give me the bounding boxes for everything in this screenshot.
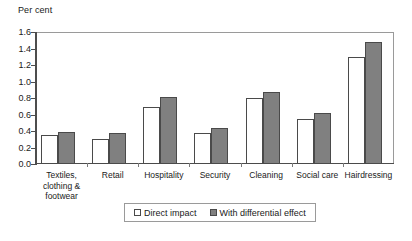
y-axis-labels: 1.61.41.21.00.80.60.40.20.0 <box>0 0 31 241</box>
bar <box>92 139 109 164</box>
bar <box>246 98 263 164</box>
y-axis-tick-label: 1.0 <box>1 77 31 87</box>
y-axis-tick-label: 0.8 <box>1 93 31 103</box>
x-axis-tick-label: Cleaning <box>241 170 292 181</box>
bar <box>263 92 280 164</box>
x-axis-tick-label: Social care <box>292 170 343 181</box>
y-axis-tick-label: 0.2 <box>1 143 31 153</box>
bar <box>143 107 160 164</box>
x-axis-tick-label: Security <box>189 170 240 181</box>
bar <box>314 113 331 164</box>
bar <box>297 119 314 164</box>
bar-group <box>36 32 87 164</box>
category-tick-mark <box>292 163 293 167</box>
bar-group <box>138 32 189 164</box>
y-axis-tick-label: 0.4 <box>1 126 31 136</box>
legend-label: With differential effect <box>220 208 306 218</box>
category-tick-mark <box>189 163 190 167</box>
legend-item-direct-impact: Direct impact <box>134 208 197 218</box>
bar <box>58 132 75 164</box>
y-axis-tick-label: 1.2 <box>1 60 31 70</box>
category-tick-mark <box>138 163 139 167</box>
bar <box>365 42 382 164</box>
y-axis-tick-label: 0.0 <box>1 159 31 169</box>
y-axis-tick-label: 1.4 <box>1 44 31 54</box>
y-axis-tick-mark <box>31 164 36 165</box>
legend-item-with-differential-effect: With differential effect <box>210 208 306 218</box>
category-tick-mark <box>343 163 344 167</box>
legend-swatch-icon <box>210 209 217 216</box>
x-axis-tick-label: Hairdressing <box>343 170 394 181</box>
bar-group <box>87 32 138 164</box>
category-tick-mark <box>87 163 88 167</box>
bar-group <box>189 32 240 164</box>
y-axis-tick-label: 1.6 <box>1 27 31 37</box>
legend-swatch-icon <box>134 209 141 216</box>
chart-legend: Direct impact With differential effect <box>124 203 316 222</box>
legend-label: Direct impact <box>144 208 197 218</box>
bar-group <box>292 32 343 164</box>
bar-group <box>241 32 292 164</box>
bar <box>41 135 58 164</box>
category-tick-mark <box>241 163 242 167</box>
x-axis-tick-label: Retail <box>87 170 138 181</box>
bar-chart: Per cent 1.61.41.21.00.80.60.40.20.0 Tex… <box>0 0 412 241</box>
bar <box>160 97 177 164</box>
bar-group <box>343 32 394 164</box>
y-axis-tick-label: 0.6 <box>1 110 31 120</box>
bar <box>194 133 211 164</box>
bar <box>348 57 365 164</box>
bar <box>211 128 228 164</box>
x-axis-tick-label: Textiles, clothing & footwear <box>36 170 87 202</box>
x-axis-tick-label: Hospitality <box>138 170 189 181</box>
bar <box>109 133 126 164</box>
